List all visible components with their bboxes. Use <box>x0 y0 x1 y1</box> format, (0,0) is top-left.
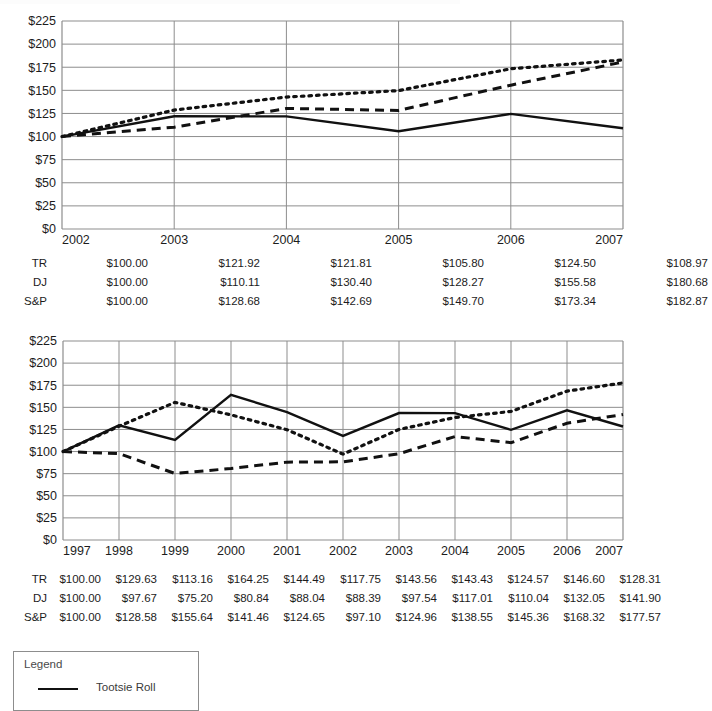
data-table-10-year: TR$100.00$129.63$113.16$164.25$144.49$11… <box>0 570 658 627</box>
table-cell-value: $100.00 <box>47 273 159 292</box>
y-axis-tick-label: $25 <box>35 199 56 213</box>
table-row: DJ$100.00$110.11$130.40$128.27$155.58$18… <box>0 273 712 292</box>
table-cell-value: $130.40 <box>271 273 383 292</box>
table-cell-value: $182.87 <box>607 292 712 311</box>
table-row-label: TR <box>0 570 47 589</box>
y-axis-tick-label: $200 <box>28 37 56 51</box>
y-axis-tick-label: $75 <box>36 467 57 481</box>
y-axis-tick-label: $200 <box>29 356 57 370</box>
table-cell-value: $128.31 <box>607 570 663 589</box>
y-axis-tick-label: $150 <box>28 84 56 98</box>
table-cell-value: $80.84 <box>215 589 271 608</box>
table-cell-value: $155.58 <box>495 273 607 292</box>
table-cell-value: $177.57 <box>607 608 663 627</box>
table-body: TR$100.00$129.63$113.16$164.25$144.49$11… <box>0 570 663 627</box>
y-axis-tick-label: $0 <box>42 222 56 236</box>
table-cell-value: $88.39 <box>327 589 383 608</box>
y-axis-tick-label: $150 <box>29 401 57 415</box>
y-axis-tick-label: $125 <box>29 423 57 437</box>
table-cell-value: $97.10 <box>327 608 383 627</box>
table-row: S&P$100.00$128.58$155.64$141.46$124.65$9… <box>0 608 663 627</box>
legend-title: Legend <box>24 658 62 670</box>
table-row: TR$100.00$129.63$113.16$164.25$144.49$11… <box>0 570 663 589</box>
table-cell-value: $128.68 <box>159 292 271 311</box>
legend-line-swatch-solid <box>38 688 78 690</box>
y-axis-tick-label: $0 <box>43 533 57 547</box>
table-cell-value: $100.00 <box>47 589 103 608</box>
table-cell-value: $128.58 <box>103 608 159 627</box>
table-cell-value: $149.70 <box>383 292 495 311</box>
table-cell-value: $129.63 <box>103 570 159 589</box>
table-cell-value: $143.43 <box>439 570 495 589</box>
table-cell-value: $168.32 <box>551 608 607 627</box>
x-axis-tick-label: 1998 <box>105 544 133 558</box>
table-cell-value: $155.64 <box>159 608 215 627</box>
table-cell-value: $121.81 <box>271 254 383 273</box>
x-axis-tick-label: 2006 <box>497 233 525 246</box>
series-line-sandp <box>62 60 623 137</box>
chart-10-year-canvas: $225$200$175$150$125$100$75$50$25$019971… <box>0 334 658 566</box>
y-axis-tick-label: $50 <box>35 176 56 190</box>
y-axis-tick-label: $100 <box>29 445 57 459</box>
y-axis-tick-label: $175 <box>28 61 56 75</box>
table-cell-value: $100.00 <box>47 254 159 273</box>
y-axis-tick-label: $125 <box>28 107 56 121</box>
x-axis-tick-label: 2007 <box>595 233 623 246</box>
chart-10-year: $225$200$175$150$125$100$75$50$25$019971… <box>0 334 658 566</box>
legend-item-label: Tootsie Roll <box>96 681 155 693</box>
table-cell-value: $143.56 <box>383 570 439 589</box>
table-cell-value: $97.67 <box>103 589 159 608</box>
table-cell-value: $100.00 <box>47 292 159 311</box>
table-cell-value: $180.68 <box>607 273 712 292</box>
x-axis-tick-label: 2004 <box>441 544 469 558</box>
table-row-label: DJ <box>0 589 47 608</box>
top-artifact <box>0 0 460 4</box>
table-row-label: S&P <box>0 292 47 311</box>
table-cell-value: $97.54 <box>383 589 439 608</box>
table-cell-value: $110.11 <box>159 273 271 292</box>
table-row: S&P$100.00$128.68$142.69$149.70$173.34$1… <box>0 292 712 311</box>
x-axis-tick-label: 2007 <box>595 544 623 558</box>
table-cell-value: $144.49 <box>271 570 327 589</box>
table-cell-value: $173.34 <box>495 292 607 311</box>
table-cell-value: $88.04 <box>271 589 327 608</box>
x-axis-tick-label: 2000 <box>217 544 245 558</box>
table-cell-value: $141.46 <box>215 608 271 627</box>
table-cell-value: $138.55 <box>439 608 495 627</box>
table-cell-value: $128.27 <box>383 273 495 292</box>
table-cell-value: $164.25 <box>215 570 271 589</box>
table-body: TR$100.00$121.92$121.81$105.80$124.50$10… <box>0 254 712 311</box>
table-cell-value: $121.92 <box>159 254 271 273</box>
table-cell-value: $141.90 <box>607 589 663 608</box>
data-table-5-year: TR$100.00$121.92$121.81$105.80$124.50$10… <box>0 254 658 311</box>
table-cell-value: $124.65 <box>271 608 327 627</box>
x-axis-tick-label: 2005 <box>497 544 525 558</box>
table-cell-value: $113.16 <box>159 570 215 589</box>
table-cell-value: $105.80 <box>383 254 495 273</box>
table-cell-value: $110.04 <box>495 589 551 608</box>
x-axis-tick-label: 2004 <box>272 233 300 246</box>
legend-box: Legend Tootsie Roll <box>13 651 199 711</box>
y-axis-tick-label: $50 <box>36 489 57 503</box>
y-axis-tick-label: $100 <box>28 130 56 144</box>
table-cell-value: $117.01 <box>439 589 495 608</box>
x-axis-tick-label: 2005 <box>385 233 413 246</box>
table-cell-value: $145.36 <box>495 608 551 627</box>
x-axis-tick-label: 2001 <box>273 544 301 558</box>
y-axis-tick-label: $25 <box>36 511 57 525</box>
table-cell-value: $100.00 <box>47 608 103 627</box>
x-axis-tick-label: 2003 <box>385 544 413 558</box>
table-cell-value: $124.50 <box>495 254 607 273</box>
table-row: TR$100.00$121.92$121.81$105.80$124.50$10… <box>0 254 712 273</box>
legend-item-tootsie-roll: Tootsie Roll <box>24 681 194 699</box>
x-axis-tick-label: 1997 <box>63 544 91 558</box>
y-axis-tick-label: $175 <box>29 379 57 393</box>
x-axis-tick-label: 2006 <box>553 544 581 558</box>
x-axis-tick-label: 1999 <box>161 544 189 558</box>
y-axis-tick-label: $225 <box>29 334 57 348</box>
table-row-label: TR <box>0 254 47 273</box>
table-cell-value: $132.05 <box>551 589 607 608</box>
table-cell-value: $75.20 <box>159 589 215 608</box>
table-row-label: DJ <box>0 273 47 292</box>
x-axis-tick-label: 2002 <box>62 233 90 246</box>
